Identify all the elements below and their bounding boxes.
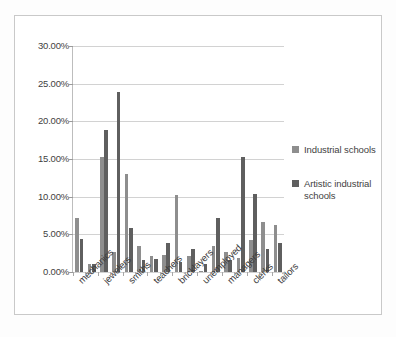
legend-entry[interactable]: Artistic industrial schools	[292, 178, 392, 202]
x-axis-tick-mark	[123, 272, 124, 276]
x-axis-tick-mark	[247, 272, 248, 276]
x-axis-tick-mark	[110, 272, 111, 276]
bar	[241, 157, 245, 272]
x-axis-tick-mark	[73, 272, 74, 276]
bar	[278, 243, 282, 272]
x-axis-tick-mark	[135, 272, 136, 276]
y-axis-tick-label: 30.00%	[17, 40, 69, 51]
x-axis-tick-mark	[85, 272, 86, 276]
x-axis-tick-mark	[259, 272, 260, 276]
x-axis-tick-mark	[284, 272, 285, 276]
x-axis-tick-mark	[234, 272, 235, 276]
y-axis-tick-mark	[68, 84, 73, 85]
x-axis-labels: mechanicsjewelerssmithsteachersbricklaye…	[15, 274, 383, 334]
legend-label: Artistic industrial schools	[304, 178, 392, 202]
gridline	[73, 121, 284, 122]
legend-entry[interactable]: Industrial schools	[292, 144, 392, 156]
x-axis-tick-mark	[272, 272, 273, 276]
x-axis-tick-mark	[98, 272, 99, 276]
bar	[75, 218, 79, 272]
y-axis-tick-label: 20.00%	[17, 115, 69, 126]
x-axis-tick-mark	[172, 272, 173, 276]
gridline	[73, 84, 284, 85]
bar	[129, 228, 133, 272]
y-axis-tick-label: 5.00%	[17, 228, 69, 239]
bar	[80, 239, 84, 272]
bar	[274, 225, 278, 272]
bar	[117, 92, 121, 272]
x-axis-tick-mark	[210, 272, 211, 276]
legend-swatch-icon	[292, 180, 299, 187]
x-axis-tick-mark	[185, 272, 186, 276]
y-axis-tick-mark	[68, 197, 73, 198]
y-axis-tick-mark	[68, 121, 73, 122]
chart-plot-frame: 0.00%5.00%10.00%15.00%20.00%25.00%30.00%…	[14, 15, 382, 315]
legend-swatch-icon	[292, 146, 299, 153]
y-axis-tick-mark	[68, 234, 73, 235]
gridline	[73, 46, 284, 47]
legend-label: Industrial schools	[304, 144, 376, 156]
x-axis-tick-mark	[222, 272, 223, 276]
plot-area	[73, 46, 284, 272]
chart-legend: Industrial schoolsArtistic industrial sc…	[292, 144, 392, 224]
x-axis-tick-mark	[197, 272, 198, 276]
y-axis-tick-mark	[68, 159, 73, 160]
y-axis-tick-label: 15.00%	[17, 153, 69, 164]
x-axis-tick-mark	[160, 272, 161, 276]
x-axis-tick-mark	[147, 272, 148, 276]
chart-figure: 0.00%5.00%10.00%15.00%20.00%25.00%30.00%…	[0, 0, 396, 337]
y-axis-tick-label: 10.00%	[17, 191, 69, 202]
y-axis: 0.00%5.00%10.00%15.00%20.00%25.00%30.00%	[15, 16, 69, 316]
bar	[199, 271, 203, 273]
y-axis-tick-label: 25.00%	[17, 78, 69, 89]
y-axis-tick-mark	[68, 46, 73, 47]
